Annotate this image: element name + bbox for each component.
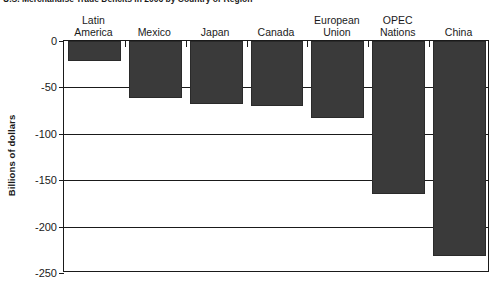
category-label: European Union: [306, 15, 367, 38]
y-axis-tick-label: -50: [41, 81, 57, 93]
y-axis-title: Billions of dollars: [6, 86, 17, 226]
chart-title: U.S. Merchandise Trade Deficits in 2006 …: [3, 0, 473, 5]
x-axis-tick: [247, 41, 248, 47]
category-label: OPEC Nations: [367, 15, 428, 38]
chart-figure: U.S. Merchandise Trade Deficits in 2006 …: [0, 0, 500, 282]
y-axis-tick: [59, 273, 64, 274]
y-axis-tick: [59, 87, 64, 88]
y-axis-tick-label: -100: [35, 128, 57, 140]
plot-area: 0-50-100-150-200-250: [63, 40, 489, 272]
category-label: Mexico: [124, 27, 185, 39]
y-axis-tick: [59, 41, 64, 42]
y-axis-tick-label: 0: [51, 35, 57, 47]
x-axis-tick: [125, 41, 126, 47]
y-axis-tick: [59, 180, 64, 181]
category-label: Latin America: [63, 15, 124, 38]
y-axis-tick-label: -150: [35, 174, 57, 186]
bar[interactable]: [129, 41, 182, 98]
y-axis-tick-label: -200: [35, 221, 57, 233]
x-axis-tick: [368, 41, 369, 47]
bar[interactable]: [372, 41, 425, 194]
y-axis-tick: [59, 134, 64, 135]
bar[interactable]: [190, 41, 243, 104]
x-axis-tick: [307, 41, 308, 47]
category-label: Japan: [185, 27, 246, 39]
y-axis-tick-label: -250: [35, 267, 57, 279]
gridline: [64, 227, 488, 228]
category-label: China: [428, 27, 489, 39]
bar[interactable]: [68, 41, 121, 61]
bar[interactable]: [433, 41, 486, 256]
bar[interactable]: [311, 41, 364, 118]
x-axis-tick: [429, 41, 430, 47]
x-axis-tick: [186, 41, 187, 47]
y-axis-tick: [59, 227, 64, 228]
bar[interactable]: [251, 41, 304, 106]
category-label: Canada: [246, 27, 307, 39]
